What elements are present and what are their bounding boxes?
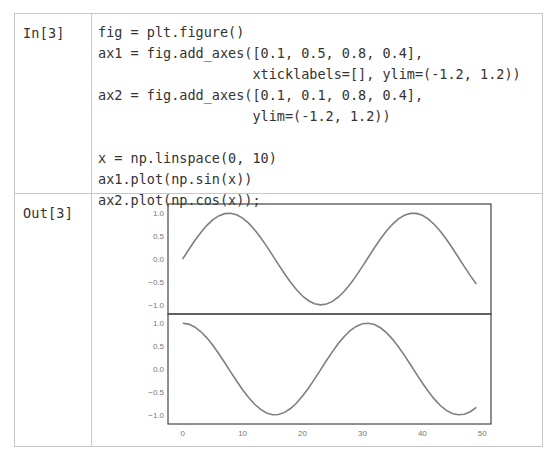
x-tick-label: 20 [298,429,307,438]
y-tick-label: −0.5 [148,388,164,397]
y-tick-label: 0.0 [153,255,165,264]
y-tick-label: −1.0 [148,301,164,310]
series-line-cos [183,323,477,415]
x-tick-label: 10 [238,429,247,438]
y-tick-label: 1.0 [153,319,165,328]
axes-bottom-cos: 1.00.50.0−0.5−1.001020304050 [148,314,491,438]
y-tick-label: −0.5 [148,278,164,287]
axes-frame [168,204,491,314]
axes-top-sin: 1.00.50.0−0.5−1.0 [148,204,491,314]
y-tick-label: 1.0 [153,209,165,218]
x-tick-label: 30 [358,429,367,438]
x-tick-label: 0 [180,429,185,438]
y-tick-label: 0.5 [153,342,165,351]
y-tick-label: 0.5 [153,232,165,241]
series-line-sin [183,213,477,305]
x-tick-label: 50 [478,429,487,438]
x-tick-label: 40 [418,429,427,438]
figure-output: 1.00.50.0−0.5−1.0 1.00.50.0−0.5−1.001020… [0,0,558,462]
y-tick-label: −1.0 [148,411,164,420]
y-tick-label: 0.0 [153,365,165,374]
